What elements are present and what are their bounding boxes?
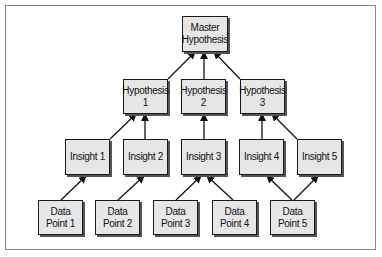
node-insight-3: Insight 3 — [181, 139, 226, 175]
node-hypothesis-1: Hypothesis 1 — [123, 79, 168, 114]
edge-i5-h3 — [272, 114, 297, 139]
node-data-point-5: Data Point 5 — [270, 200, 315, 235]
node-hypothesis-3: Hypothesis 3 — [240, 79, 285, 114]
node-data-point-4: Data Point 4 — [212, 200, 257, 235]
node-insight-4: Insight 4 — [239, 139, 284, 175]
node-hypothesis-2: Hypothesis 2 — [181, 79, 226, 114]
node-data-point-3: Data Point 3 — [153, 200, 198, 235]
edge-d3-i3 — [176, 176, 201, 200]
node-insight-5: Insight 5 — [297, 139, 342, 175]
edge-h3-master — [214, 52, 240, 79]
edge-d1-i1 — [61, 176, 86, 200]
diagram-canvas: Master Hypothesis Hypothesis 1 Hypothesi… — [0, 0, 382, 257]
edge-d4-i3 — [207, 176, 233, 200]
node-insight-2: Insight 2 — [123, 139, 168, 175]
edge-d2-i2 — [118, 176, 144, 200]
edge-d5-i5 — [294, 176, 318, 200]
edge-i1-h1 — [110, 114, 136, 139]
node-master-hypothesis: Master Hypothesis — [182, 16, 228, 52]
node-data-point-1: Data Point 1 — [38, 200, 83, 235]
edge-d5-i4 — [267, 176, 292, 200]
node-data-point-2: Data Point 2 — [95, 200, 140, 235]
edge-h1-master — [168, 52, 195, 79]
node-insight-1: Insight 1 — [65, 139, 110, 175]
